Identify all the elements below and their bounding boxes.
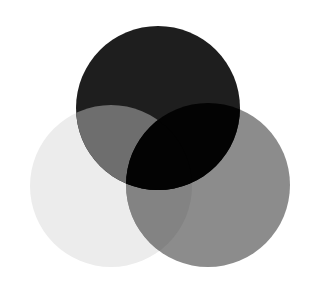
venn-diagram	[0, 0, 313, 292]
